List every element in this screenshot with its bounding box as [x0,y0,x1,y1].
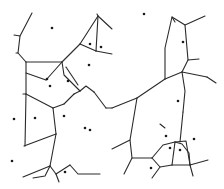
site-point [49,85,52,88]
site-point [13,118,16,121]
site-point [88,64,91,67]
site-point [100,46,103,49]
site-point [89,43,92,46]
site-point [150,167,153,170]
site-point [11,160,14,163]
site-point [169,147,172,150]
site-point [51,27,54,30]
site-point [179,149,182,152]
site-point [46,78,49,81]
voronoi-diagram [0,0,224,189]
site-point [143,13,146,16]
site-point [193,138,196,141]
site-point [177,100,180,103]
site-point [34,117,37,120]
site-point [165,135,168,138]
site-point [89,129,92,132]
site-point [182,41,185,44]
site-point [64,171,67,174]
site-point [63,115,66,118]
site-point [84,127,87,130]
site-point [67,80,70,83]
